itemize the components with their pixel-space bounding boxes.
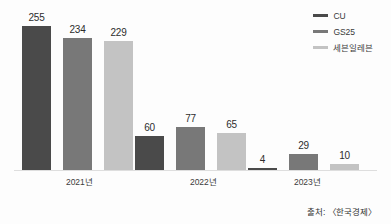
bar-value-2022-gs25: 77 <box>170 113 212 124</box>
bar-group-2023: 4 29 10 <box>248 0 359 170</box>
bar-wrap-2023-seven-eleven: 10 <box>330 0 359 170</box>
category-label-2021: 2021년 <box>66 176 92 188</box>
bar-value-2023-cu: 4 <box>242 154 284 165</box>
chart-container: CU GS25 세븐일레븐 255 234 <box>0 0 391 224</box>
bar-2021-gs25 <box>63 38 92 170</box>
bar-wrap-2023-cu: 4 <box>248 0 277 170</box>
bar-2023-gs25 <box>289 154 318 170</box>
category-label-2022: 2022년 <box>190 176 216 188</box>
bar-value-2023-gs25: 29 <box>283 140 325 151</box>
bar-group-2022: 60 77 65 <box>135 0 246 170</box>
source-note: 출처: 〈한국경제〉 <box>307 205 377 217</box>
bar-wrap-2023-gs25: 29 <box>289 0 318 170</box>
bar-2023-cu <box>248 168 277 170</box>
category-axis-labels: 2021년 2022년 2023년 <box>22 176 352 192</box>
bar-group-2021: 255 234 229 <box>22 0 133 170</box>
bar-wrap-2022-seven-eleven: 65 <box>217 0 246 170</box>
bar-value-2021-seven-eleven: 229 <box>98 27 140 38</box>
bar-value-2022-cu: 60 <box>129 122 171 133</box>
bar-2023-seven-eleven <box>330 164 359 170</box>
bar-wrap-2021-seven-eleven: 229 <box>104 0 133 170</box>
bar-2021-seven-eleven <box>104 41 133 170</box>
bar-wrap-2021-cu: 255 <box>22 0 51 170</box>
plot-area: 255 234 229 60 77 <box>0 0 391 172</box>
axis-baseline <box>14 170 377 171</box>
bar-value-2021-cu: 255 <box>16 12 58 23</box>
bar-2021-cu <box>22 26 51 170</box>
bar-wrap-2022-cu: 60 <box>135 0 164 170</box>
bar-value-2022-seven-eleven: 65 <box>211 119 253 130</box>
category-label-2023: 2023년 <box>294 176 320 188</box>
bar-value-2021-gs25: 234 <box>57 24 99 35</box>
bar-2022-gs25 <box>176 127 205 170</box>
bar-value-2023-seven-eleven: 10 <box>324 150 366 161</box>
bar-wrap-2021-gs25: 234 <box>63 0 92 170</box>
bar-groups: 255 234 229 60 77 <box>22 0 352 170</box>
bar-wrap-2022-gs25: 77 <box>176 0 205 170</box>
bar-2022-cu <box>135 136 164 170</box>
